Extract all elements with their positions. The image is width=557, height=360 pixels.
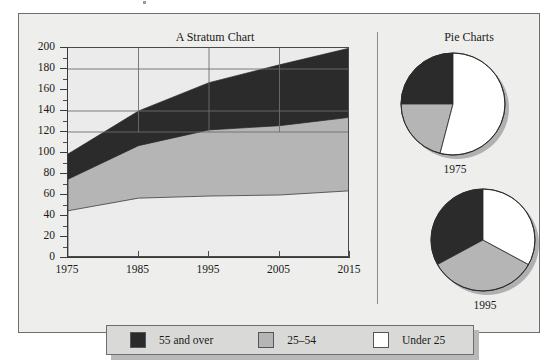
y-tick-minor bbox=[63, 58, 67, 59]
y-axis-line bbox=[67, 47, 68, 258]
panel-divider bbox=[377, 32, 378, 304]
legend-label: 25–54 bbox=[287, 334, 316, 346]
legend-swatch-dark bbox=[130, 332, 146, 348]
plot-area bbox=[67, 47, 349, 257]
legend: 55 and over25–54Under 25 bbox=[106, 325, 474, 355]
y-tick-label: 140 bbox=[31, 104, 55, 116]
pie-1995-caption: 1995 bbox=[445, 300, 525, 312]
x-tick bbox=[279, 251, 280, 257]
y-tick-label: 200 bbox=[31, 41, 55, 53]
x-tick-label: 1995 bbox=[188, 264, 228, 276]
legend-entry: 55 and over bbox=[130, 332, 213, 348]
legend-swatch-white bbox=[373, 332, 389, 348]
legend-swatch-gray bbox=[258, 332, 274, 348]
x-tick bbox=[138, 251, 139, 257]
legend-entry: Under 25 bbox=[373, 332, 445, 348]
figure-panel: A Stratum Chart Pie Charts 0204060801001… bbox=[18, 13, 540, 333]
y-tick-label: 160 bbox=[31, 83, 55, 95]
y-tick-minor bbox=[63, 205, 67, 206]
pie-slice-55-and-over bbox=[401, 53, 453, 104]
y-tick-major bbox=[60, 68, 67, 69]
y-tick-major bbox=[60, 89, 67, 90]
y-tick-label: 40 bbox=[31, 209, 55, 221]
y-tick-major bbox=[60, 236, 67, 237]
pie-chart-1995 bbox=[427, 186, 542, 302]
y-tick-major bbox=[60, 257, 67, 258]
x-axis-line bbox=[67, 257, 350, 258]
pie-1975-caption: 1975 bbox=[415, 164, 495, 176]
y-tick-label: 100 bbox=[31, 146, 55, 158]
y-tick-major bbox=[60, 47, 67, 48]
y-tick-minor bbox=[63, 163, 67, 164]
stacked-area-svg bbox=[68, 48, 349, 257]
y-tick-minor bbox=[63, 142, 67, 143]
y-tick-label: 60 bbox=[31, 188, 55, 200]
legend-label: 55 and over bbox=[159, 334, 213, 346]
y-tick-minor bbox=[63, 226, 67, 227]
y-tick-label: 20 bbox=[31, 230, 55, 242]
x-tick-label: 2005 bbox=[259, 264, 299, 276]
x-tick-label: 1975 bbox=[47, 264, 87, 276]
y-tick-major bbox=[60, 173, 67, 174]
y-tick-minor bbox=[63, 100, 67, 101]
x-tick-label: 2015 bbox=[329, 264, 369, 276]
y-tick-label: 120 bbox=[31, 125, 55, 137]
x-tick-label: 1985 bbox=[118, 264, 158, 276]
y-tick-major bbox=[60, 131, 67, 132]
legend-label: Under 25 bbox=[402, 334, 445, 346]
y-tick-label: 0 bbox=[31, 251, 55, 263]
y-tick-major bbox=[60, 215, 67, 216]
y-tick-minor bbox=[63, 121, 67, 122]
pie-charts-title: Pie Charts bbox=[399, 30, 539, 45]
stratum-chart: 020406080100120140160180200 197519851995… bbox=[37, 42, 367, 292]
scan-artifact bbox=[143, 1, 146, 4]
pie-chart-1975 bbox=[397, 50, 512, 166]
y-tick-major bbox=[60, 194, 67, 195]
y-tick-minor bbox=[63, 184, 67, 185]
y-tick-label: 180 bbox=[31, 62, 55, 74]
pie-1975-svg bbox=[397, 50, 512, 162]
legend-entry: 25–54 bbox=[258, 332, 316, 348]
y-tick-label: 80 bbox=[31, 167, 55, 179]
x-tick bbox=[349, 251, 350, 257]
y-tick-major bbox=[60, 110, 67, 111]
y-tick-minor bbox=[63, 247, 67, 248]
pie-1995-svg bbox=[427, 186, 542, 298]
x-tick bbox=[208, 251, 209, 257]
y-tick-major bbox=[60, 152, 67, 153]
y-tick-minor bbox=[63, 79, 67, 80]
